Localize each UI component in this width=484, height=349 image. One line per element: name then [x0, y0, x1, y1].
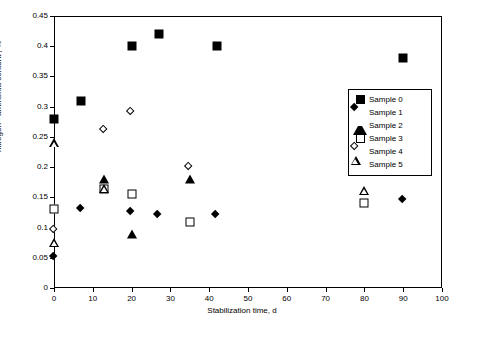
- data-point: [127, 229, 137, 238]
- y-tick-label: 0.1: [2, 224, 48, 232]
- x-tick-label: 20: [127, 295, 136, 303]
- x-tick-mark: [248, 288, 249, 292]
- data-point: [399, 54, 408, 63]
- data-point: [99, 175, 109, 184]
- legend-item: Sample 5: [353, 158, 427, 171]
- data-point: [50, 205, 59, 214]
- data-point: [212, 42, 221, 51]
- y-tick-mark: [50, 197, 54, 198]
- data-point: [77, 96, 86, 105]
- y-tick-label: 0.45: [2, 12, 48, 20]
- y-tick-label: 0.25: [2, 133, 48, 141]
- y-tick-label: 0.05: [2, 254, 48, 262]
- x-tick-mark: [364, 288, 365, 292]
- legend-item: Sample 4: [353, 145, 427, 158]
- x-tick-mark: [170, 288, 171, 292]
- data-point: [154, 30, 163, 39]
- legend-marker-glyph: [353, 117, 367, 135]
- x-tick-label: 70: [321, 295, 330, 303]
- data-point: [127, 190, 136, 199]
- y-tick-mark: [50, 46, 54, 47]
- data-point: [127, 42, 136, 51]
- legend-label: Sample 2: [369, 121, 403, 130]
- y-tick-label: 0.4: [2, 42, 48, 50]
- x-axis-title: Stabilization time, d: [0, 306, 484, 315]
- x-tick-label: 50: [244, 295, 253, 303]
- y-tick-mark: [50, 76, 54, 77]
- y-axis-title: nitrogen - ammonia content , %: [0, 0, 3, 152]
- data-point: [185, 217, 194, 226]
- x-tick-label: 90: [399, 295, 408, 303]
- y-tick-label: 0.35: [2, 72, 48, 80]
- y-tick-label: 0: [2, 284, 48, 292]
- legend-marker-icon: [353, 120, 367, 131]
- legend: Sample 0Sample 1Sample 2Sample 3Sample 4…: [348, 89, 432, 176]
- x-tick-label: 80: [360, 295, 369, 303]
- legend-item: Sample 0: [353, 93, 427, 106]
- legend-label: Sample 4: [369, 147, 403, 156]
- y-tick-label: 0.2: [2, 163, 48, 171]
- x-tick-label: 30: [166, 295, 175, 303]
- x-tick-mark: [403, 288, 404, 292]
- legend-item: Sample 3: [353, 132, 427, 145]
- x-tick-mark: [326, 288, 327, 292]
- x-tick-mark: [442, 288, 443, 292]
- legend-label: Sample 5: [369, 160, 403, 169]
- x-tick-label: 40: [205, 295, 214, 303]
- y-tick-mark: [50, 167, 54, 168]
- legend-marker-glyph: [356, 134, 365, 143]
- x-tick-mark: [54, 288, 55, 292]
- x-tick-label: 10: [88, 295, 97, 303]
- data-point: [50, 114, 59, 123]
- scatter-chart: 00.050.10.150.20.250.30.350.40.45 010203…: [0, 0, 484, 349]
- y-tick-mark: [50, 16, 54, 17]
- x-tick-label: 100: [435, 295, 448, 303]
- x-tick-mark: [287, 288, 288, 292]
- x-tick-mark: [93, 288, 94, 292]
- y-tick-label: 0.3: [2, 103, 48, 111]
- legend-marker-icon: [353, 159, 367, 170]
- x-tick-label: 0: [52, 295, 56, 303]
- data-point: [360, 199, 369, 208]
- legend-label: Sample 1: [369, 108, 403, 117]
- data-point: [185, 175, 195, 184]
- y-tick-mark: [50, 107, 54, 108]
- x-tick-mark: [132, 288, 133, 292]
- legend-marker-glyph: [356, 95, 365, 104]
- legend-label: Sample 0: [369, 95, 403, 104]
- legend-item: Sample 2: [353, 119, 427, 132]
- x-tick-label: 60: [282, 295, 291, 303]
- legend-label: Sample 3: [369, 134, 403, 143]
- legend-marker-glyph: [356, 160, 365, 169]
- x-tick-mark: [209, 288, 210, 292]
- y-tick-label: 0.15: [2, 193, 48, 201]
